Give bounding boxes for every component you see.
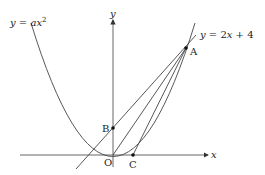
segment-CA [133, 48, 186, 155]
point-B [111, 126, 115, 130]
line-equation-label: y = 2x + 4 [199, 29, 254, 40]
point-B-label: B [102, 123, 109, 134]
point-A [184, 46, 188, 50]
origin-label: O [104, 157, 112, 168]
y-axis-label: y [109, 8, 116, 19]
point-C [131, 153, 135, 157]
point-C-label: C [129, 159, 137, 170]
segment-OA [113, 48, 186, 155]
diagram-canvas: A B C O x y y = ax2 y = 2x + 4 [0, 0, 265, 175]
parabola-equation-label: y = ax2 [9, 16, 46, 28]
point-A-label: A [189, 46, 198, 57]
x-axis-label: x [211, 149, 217, 160]
